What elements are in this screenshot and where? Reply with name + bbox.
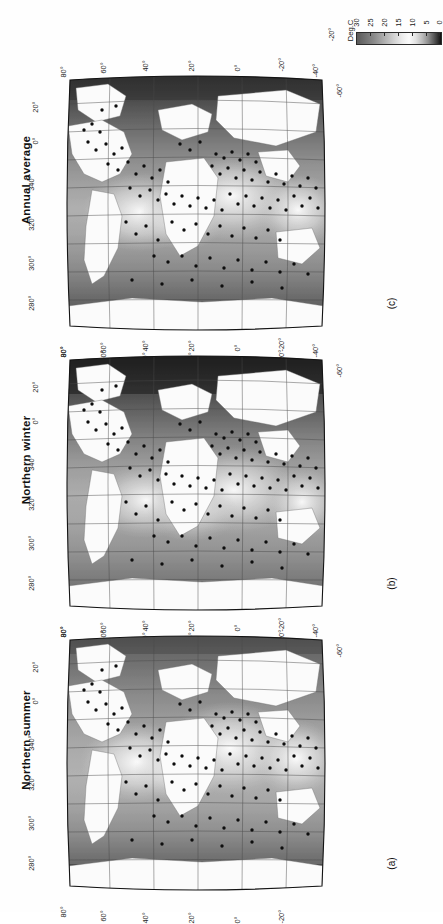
lon-label: 20° (31, 382, 40, 412)
lat-label: 60° (99, 324, 108, 354)
lon-label: 340° (27, 456, 36, 486)
colorbar-tick-label: 0 (435, 12, 443, 34)
colorbar-gradient (356, 32, 442, 45)
panel-northern-winter: Northern winter (b) (0, 332, 443, 632)
lon-label: 280° (27, 856, 36, 886)
lat-label: 20° (187, 602, 196, 632)
lat-label: -60° (335, 628, 344, 658)
lon-label: 300° (27, 536, 36, 566)
colorbar: Deg.C 30 25 20 15 10 5 0 (336, 6, 440, 52)
lat-label: -40° (311, 328, 320, 358)
lat-label: -40° (311, 48, 320, 78)
panel-letter: (b) (386, 564, 397, 604)
lon-label: 300° (27, 816, 36, 846)
lat-label: 20° (187, 322, 196, 352)
lat-label: 40° (141, 42, 150, 72)
lat-label: 60° (99, 892, 108, 922)
lat-label: 40° (141, 602, 150, 632)
lat-label: 20° (187, 42, 196, 72)
lon-label: 340° (27, 176, 36, 206)
lon-label: 0° (31, 698, 40, 728)
colorbar-tick-label: 5 (422, 12, 431, 34)
lat-label: 0° (233, 322, 242, 352)
lon-label: 280° (27, 296, 36, 326)
lat-label: -20° (277, 894, 286, 924)
lat-label: 0° (233, 894, 242, 924)
panel-letter: (c) (386, 284, 397, 324)
colorbar-tick-label: 10 (408, 12, 417, 34)
lat-label: 0° (233, 602, 242, 632)
lon-label: 280° (27, 576, 36, 606)
lon-label: 0° (31, 418, 40, 448)
lat-label: 60° (99, 44, 108, 74)
lat-label: -60° (335, 348, 344, 378)
lat-label: 40° (141, 322, 150, 352)
lat-label: 60° (99, 604, 108, 634)
lon-label: 320° (27, 496, 36, 526)
colorbar-side-label: -20° (327, 22, 336, 48)
lat-label: -40° (311, 608, 320, 638)
map-northern-winter (62, 350, 330, 616)
map-canvas (62, 350, 330, 616)
lat-label: 20° (187, 894, 196, 924)
lat-label: -20° (277, 322, 286, 352)
lat-label: 0° (233, 42, 242, 72)
lon-label: 0° (31, 138, 40, 168)
lat-label: -60° (335, 68, 344, 98)
colorbar-tick-label: 25 (366, 12, 375, 34)
lon-label: 300° (27, 256, 36, 286)
colorbar-tick-label: 30 (352, 12, 361, 34)
map-canvas (62, 70, 330, 336)
lat-label: 40° (141, 894, 150, 924)
lat-label: 80° (59, 48, 68, 78)
colorbar-tick-label: 15 (394, 12, 403, 34)
lat-label: 80° (59, 608, 68, 638)
colorbar-tick-label: 20 (380, 12, 389, 34)
lon-label: 320° (27, 216, 36, 246)
lat-label: -20° (277, 42, 286, 72)
map-annual-average (62, 70, 330, 336)
map-northern-summer (62, 630, 330, 896)
lon-label: 20° (31, 102, 40, 132)
lon-label: 320° (27, 776, 36, 806)
lon-label: 20° (31, 662, 40, 692)
lat-label: 80° (59, 328, 68, 358)
map-canvas (62, 630, 330, 896)
panel-letter: (a) (386, 844, 397, 884)
lat-label: -20° (277, 602, 286, 632)
lat-label: 80° (59, 888, 68, 918)
lon-label: 340° (27, 736, 36, 766)
panel-northern-summer: Northern summer (a) (0, 612, 443, 912)
panel-annual-average: Annual average (c) (0, 52, 443, 352)
